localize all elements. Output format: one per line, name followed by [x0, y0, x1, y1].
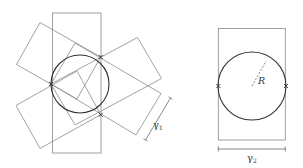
rotated-rectangle-upper-right	[51, 38, 162, 126]
gamma2-label: γ2	[247, 152, 257, 164]
gamma2-dimension	[218, 147, 285, 152]
right-panel: R γ2	[216, 29, 288, 165]
bounding-rectangle	[218, 29, 285, 141]
radius-label: R	[257, 75, 265, 86]
rotated-rectangle-upper-left	[17, 23, 101, 100]
rotated-rectangle-lower-left	[16, 71, 101, 149]
left-circle	[51, 55, 109, 113]
gamma1-label: γ1	[153, 119, 163, 131]
left-panel: γ1	[16, 13, 173, 153]
diagram-canvas: γ1 R γ2	[0, 0, 303, 168]
rotated-rectangle-lower-right	[51, 43, 161, 135]
